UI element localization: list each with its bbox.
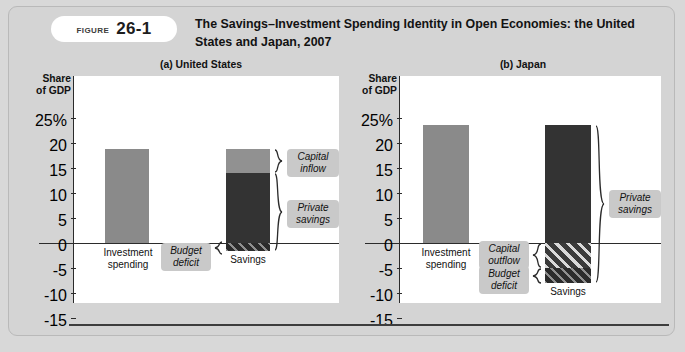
ytick-us-neg15: -15 xyxy=(33,312,67,330)
ytick-mark-us-25 xyxy=(71,118,76,119)
callout-japan-capital-outflow-line2: outflow xyxy=(488,255,520,266)
ytick-us-neg10: -10 xyxy=(33,287,67,305)
ytick-japan-0: 0 xyxy=(359,237,393,255)
ytick-mark-japan-neg5 xyxy=(397,268,402,269)
bar-us-savings xyxy=(226,149,270,251)
callout-us-budget-deficit-line1: Budget xyxy=(170,245,202,256)
callout-japan-private-savings-line2: savings xyxy=(618,204,652,215)
ytick-us-5: 5 xyxy=(33,212,67,230)
callout-us-private-savings: Private savings xyxy=(287,200,339,228)
figure-label-word: Figure xyxy=(77,23,110,35)
bar-japan-savings xyxy=(545,125,591,283)
bar-segment-japan-investment-spending xyxy=(423,125,469,243)
callout-japan-private-savings: Private savings xyxy=(609,190,661,218)
panel-title-united-states: (a) United States xyxy=(19,59,347,70)
y-axis-label-us: Shareof GDP xyxy=(17,73,71,97)
bar-segment-us-investment-spending xyxy=(105,149,149,243)
panel-united-states: (a) United States Shareof GDP 25% 20 15 … xyxy=(19,59,347,311)
bar-segment-us-private-savings xyxy=(226,173,270,243)
callout-us-budget-deficit-line2: deficit xyxy=(173,257,199,268)
bar-segment-japan-private-savings xyxy=(545,125,591,243)
callout-us-capital-inflow-line1: Capital xyxy=(297,151,328,162)
bar-segment-japan-budget-deficit xyxy=(545,268,591,283)
ytick-mark-japan-neg10 xyxy=(397,293,402,294)
brace-us-budget-deficit xyxy=(213,241,224,255)
ytick-mark-japan-15 xyxy=(397,168,402,169)
figure-number: 26-1 xyxy=(116,19,151,39)
brace-us-private-savings xyxy=(273,173,284,251)
ytick-mark-us-neg10 xyxy=(71,293,76,294)
bar-caption-japan-savings: Savings xyxy=(543,286,593,297)
ytick-us-0: 0 xyxy=(33,237,67,255)
ytick-japan-neg10: -10 xyxy=(359,287,393,305)
callout-us-private-savings-line2: savings xyxy=(296,214,330,225)
bar-segment-us-capital-inflow xyxy=(226,149,270,173)
bar-segment-japan-capital-outflow xyxy=(545,243,591,268)
bar-segment-us-budget-deficit xyxy=(226,243,270,251)
callout-us-capital-inflow-line2: inflow xyxy=(300,163,326,174)
ytick-japan-5: 5 xyxy=(359,212,393,230)
brace-japan-private-savings xyxy=(594,125,606,283)
ytick-mark-japan-neg15 xyxy=(397,318,402,319)
bar-japan-investment xyxy=(423,125,469,243)
ytick-mark-us-neg5 xyxy=(71,268,76,269)
ytick-japan-15: 15 xyxy=(359,162,393,180)
footer-rule xyxy=(69,324,669,326)
ytick-mark-us-20 xyxy=(71,143,76,144)
ytick-us-20: 20 xyxy=(33,137,67,155)
brace-japan-capital-outflow xyxy=(531,243,543,268)
ytick-mark-japan-10 xyxy=(397,193,402,194)
figure-card: Figure 26-1 The Savings–Investment Spend… xyxy=(8,6,675,336)
ytick-us-10: 10 xyxy=(33,187,67,205)
brace-japan-budget-deficit xyxy=(531,268,543,284)
bar-caption-us-investment: Investmentspending xyxy=(89,247,167,271)
ytick-mark-us-5 xyxy=(71,218,76,219)
callout-us-capital-inflow: Capital inflow xyxy=(287,149,339,177)
callout-japan-budget-deficit-line2: deficit xyxy=(491,280,517,291)
bar-caption-us-savings: Savings xyxy=(223,254,273,265)
ytick-japan-neg15: -15 xyxy=(359,312,393,330)
ytick-japan-neg5: -5 xyxy=(359,262,393,280)
callout-japan-budget-deficit: Budget deficit xyxy=(479,266,529,294)
ytick-us-15: 15 xyxy=(33,162,67,180)
panel-japan: (b) Japan Shareof GDP 25% 20 15 10 5 0 -… xyxy=(351,59,669,311)
callout-japan-budget-deficit-line1: Budget xyxy=(488,268,520,279)
y-axis-label-japan: Shareof GDP xyxy=(343,73,397,97)
ytick-mark-japan-5 xyxy=(397,218,402,219)
figure-title: The Savings–Investment Spending Identity… xyxy=(195,16,659,51)
ytick-us-neg5: -5 xyxy=(33,262,67,280)
ytick-japan-20: 20 xyxy=(359,137,393,155)
ytick-mark-japan-25 xyxy=(397,118,402,119)
callout-us-private-savings-line1: Private xyxy=(297,202,328,213)
ytick-mark-us-neg15 xyxy=(71,318,76,319)
ytick-japan-25: 25% xyxy=(359,112,393,130)
ytick-mark-us-15 xyxy=(71,168,76,169)
bar-us-investment xyxy=(105,149,149,243)
ytick-mark-us-10 xyxy=(71,193,76,194)
ytick-us-25: 25% xyxy=(33,112,67,130)
brace-us-capital-inflow xyxy=(273,149,284,173)
callout-japan-capital-outflow-line1: Capital xyxy=(488,243,519,254)
panel-title-japan: (b) Japan xyxy=(351,59,669,70)
callout-japan-capital-outflow: Capital outflow xyxy=(479,241,529,269)
ytick-mark-japan-20 xyxy=(397,143,402,144)
bar-caption-japan-investment: Investmentspending xyxy=(407,247,485,271)
callout-us-budget-deficit: Budget deficit xyxy=(161,243,211,271)
callout-japan-private-savings-line1: Private xyxy=(619,192,650,203)
ytick-japan-10: 10 xyxy=(359,187,393,205)
figure-number-pill: Figure 26-1 xyxy=(51,16,177,42)
